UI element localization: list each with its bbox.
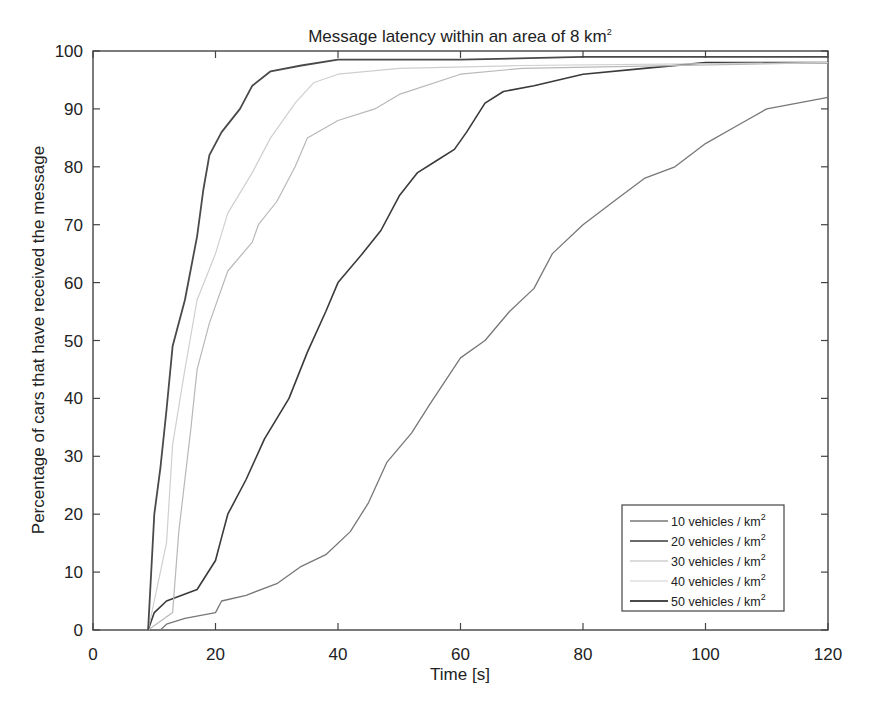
legend-label: 10 vehicles / km2 (671, 512, 766, 529)
legend-label: 20 vehicles / km2 (671, 532, 766, 549)
chart-title: Message latency within an area of 8 km2 (308, 27, 612, 46)
x-tick-label: 120 (814, 645, 842, 664)
y-tick-label: 30 (64, 447, 83, 466)
y-tick-label: 10 (64, 563, 83, 582)
y-tick-label: 50 (64, 332, 83, 351)
x-tick-label: 80 (574, 645, 593, 664)
y-tick-label: 90 (64, 100, 83, 119)
x-tick-label: 20 (206, 645, 225, 664)
legend-label: 40 vehicles / km2 (671, 572, 766, 589)
y-tick-label: 70 (64, 216, 83, 235)
x-tick-label: 0 (88, 645, 97, 664)
y-tick-label: 20 (64, 505, 83, 524)
x-tick-label: 60 (451, 645, 470, 664)
x-tick-label: 100 (691, 645, 719, 664)
y-tick-label: 80 (64, 158, 83, 177)
line-chart: Message latency within an area of 8 km2 … (0, 0, 876, 724)
y-tick-label: 0 (74, 621, 83, 640)
x-tick-label: 40 (329, 645, 348, 664)
legend-label: 30 vehicles / km2 (671, 552, 766, 569)
y-tick-label: 100 (55, 42, 83, 61)
y-tick-label: 60 (64, 274, 83, 293)
legend: 10 vehicles / km220 vehicles / km230 veh… (622, 505, 784, 611)
y-tick-label: 40 (64, 389, 83, 408)
y-axis-title: Percentage of cars that have received th… (29, 146, 48, 534)
x-axis-title: Time [s] (430, 665, 490, 684)
legend-label: 50 vehicles / km2 (671, 592, 766, 609)
